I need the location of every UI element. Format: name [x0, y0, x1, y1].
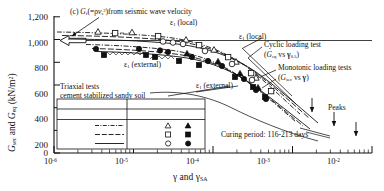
legend-filled-circle [186, 141, 191, 146]
legend-box [57, 99, 205, 149]
figure-container: 1,200 1,000 800 600 400 200 0 Gsec and G… [0, 0, 384, 191]
legend-open-circle [166, 141, 171, 146]
gf-arrow-icon [60, 36, 86, 46]
legend-open-square [166, 132, 171, 137]
seismic-gf-reference [60, 18, 372, 46]
peaks-arrows [312, 98, 356, 136]
legend-filled-square [186, 132, 191, 137]
symbols-mono-150-open-square [112, 30, 273, 93]
plot-svg [0, 0, 384, 191]
legend-symbols-open [165, 123, 171, 146]
legend-symbols-filled [185, 123, 191, 146]
